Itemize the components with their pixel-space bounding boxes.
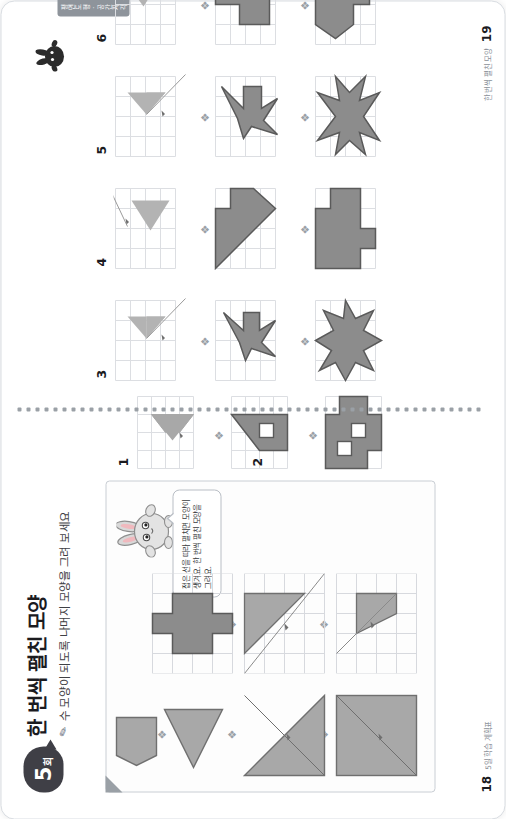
problem-number-1: 1 bbox=[115, 457, 130, 466]
arrow-up-icon: ❖ bbox=[307, 430, 318, 440]
lesson-badge-number: 5 bbox=[33, 767, 54, 781]
problem-4-given[interactable] bbox=[113, 184, 193, 270]
problem-3-middle[interactable] bbox=[213, 296, 293, 382]
footer-text-right: 한 번씩 펼친 모양 bbox=[481, 48, 492, 101]
example-left-triangle bbox=[162, 701, 224, 771]
problem-number-5: 5 bbox=[93, 145, 108, 154]
rabbit-mascot-icon bbox=[116, 495, 174, 557]
example-grid-fold-1 bbox=[334, 573, 418, 673]
problem-number-2: 2 bbox=[249, 457, 264, 466]
problem-number-3: 3 bbox=[93, 369, 108, 378]
fold-corner-icon bbox=[105, 775, 122, 792]
arrow-up-icon: ❖ bbox=[199, 112, 210, 122]
problem-5-result[interactable] bbox=[313, 72, 393, 158]
page-title: 한 번씩 펼친 모양 bbox=[21, 595, 50, 736]
lesson-badge-unit: 회 bbox=[39, 757, 54, 766]
problem-5-middle[interactable] bbox=[213, 72, 293, 158]
footer-text-left: 5일 학습 계획표 bbox=[481, 720, 492, 769]
problem-6-result[interactable] bbox=[313, 0, 393, 46]
pencil-icon: ✎ bbox=[55, 724, 72, 738]
page-right: 평면도형 · 공간지각 3 bbox=[1, 0, 506, 408]
example-card: 접은 선을 따라 펼치면 모양이 생겨요. 한 번씩 펼친 모양을 그려요. bbox=[105, 480, 435, 792]
problem-5-given[interactable] bbox=[113, 72, 193, 158]
problem-number-4: 4 bbox=[93, 257, 108, 266]
page-left: 5 회 한 번씩 펼친 모양 ✎ 수 모양이 되도록 나머지 모양을 그려 보세… bbox=[1, 408, 506, 818]
mini-rabbit-icon bbox=[35, 37, 65, 71]
worksheet-header: 5 회 한 번씩 펼친 모양 ✎ 수 모양이 되도록 나머지 모양을 그려 보세… bbox=[17, 432, 95, 792]
lesson-badge: 5 회 bbox=[23, 746, 63, 792]
example-square-with-diagonal bbox=[334, 693, 418, 777]
example-triangle-with-diagonal bbox=[242, 693, 326, 777]
subtitle-row: ✎ 수 모양이 되도록 나머지 모양을 그려 보세요 bbox=[55, 511, 71, 736]
arrow-up-icon: ❖ bbox=[299, 336, 310, 346]
arrow-up-icon: ❖ bbox=[299, 224, 310, 234]
problem-6-given[interactable] bbox=[113, 0, 193, 46]
problem-4-middle[interactable] bbox=[213, 184, 293, 270]
arrow-up-icon: ❖ bbox=[156, 729, 167, 739]
footer-right: 19 한 번씩 펼친 모양 bbox=[479, 25, 493, 101]
arrow-up-icon: ❖ bbox=[226, 729, 237, 739]
arrow-up-icon: ❖ bbox=[299, 112, 310, 122]
arrow-up-icon: ❖ bbox=[199, 336, 210, 346]
spine-dotted-divider bbox=[17, 407, 491, 411]
arrow-up-icon: ❖ bbox=[199, 0, 210, 10]
problem-3-given[interactable] bbox=[113, 296, 193, 382]
footer-left: 18 5일 학습 계획표 bbox=[479, 720, 493, 792]
problem-number-6: 6 bbox=[93, 33, 108, 42]
page-number-right: 19 bbox=[479, 25, 493, 42]
problem-3-result[interactable] bbox=[313, 296, 393, 382]
example-grid-fold-2 bbox=[242, 573, 326, 673]
problem-4-result[interactable] bbox=[313, 184, 393, 270]
problem-6-middle[interactable] bbox=[213, 0, 293, 46]
arrow-up-icon: ❖ bbox=[199, 224, 210, 234]
page-number-left: 18 bbox=[479, 775, 493, 792]
page-subtitle: 수 모양이 되도록 나머지 모양을 그려 보세요 bbox=[55, 511, 71, 721]
example-pentagon-arrow bbox=[114, 709, 158, 767]
arrow-up-icon: ❖ bbox=[299, 0, 310, 10]
example-plus-cross bbox=[150, 573, 234, 673]
arrow-up-icon: ❖ bbox=[213, 430, 224, 440]
